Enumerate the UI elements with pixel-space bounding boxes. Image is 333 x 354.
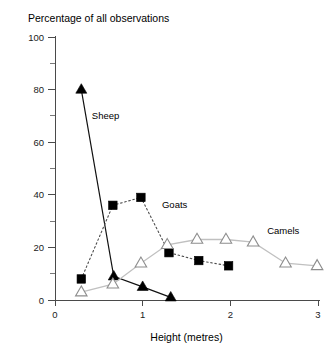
chart-plot: 0204060801000123Percentage of all observ… [0, 0, 333, 354]
marker-filled-square [77, 275, 86, 284]
marker-open-triangle [220, 233, 232, 243]
marker-open-triangle [247, 236, 259, 246]
marker-filled-square [165, 248, 174, 257]
chart-title: Percentage of all observations [28, 12, 169, 24]
marker-open-triangle [311, 260, 323, 270]
series-label-goats: Goats [162, 199, 188, 210]
series-label-sheep: Sheep [92, 110, 119, 121]
series-line-sheep [81, 90, 170, 298]
y-tick-label: 60 [33, 137, 44, 148]
marker-filled-square [224, 262, 233, 271]
marker-open-triangle [280, 257, 292, 267]
y-tick-label: 100 [28, 32, 44, 43]
y-tick-label: 0 [39, 295, 44, 306]
chart-container: 0204060801000123Percentage of all observ… [0, 0, 333, 354]
series-line-goats [81, 197, 228, 279]
chart-text-group: 0204060801000123Percentage of all observ… [28, 12, 321, 343]
marker-open-triangle [191, 233, 203, 243]
x-tick-label: 3 [315, 309, 320, 320]
marker-open-triangle [135, 257, 147, 267]
x-tick-label: 2 [228, 309, 233, 320]
series-goats [77, 193, 233, 283]
marker-filled-triangle [76, 84, 87, 94]
x-axis-title: Height (metres) [150, 331, 222, 343]
x-tick-label: 1 [140, 309, 145, 320]
y-tick-label: 80 [33, 84, 44, 95]
marker-filled-square [137, 193, 146, 202]
marker-filled-square [109, 201, 118, 210]
x-tick-label: 0 [52, 309, 57, 320]
marker-filled-square [195, 256, 204, 265]
series-label-camels: Camels [267, 225, 299, 236]
y-tick-label: 20 [33, 242, 44, 253]
y-tick-label: 40 [33, 189, 44, 200]
chart-axes [48, 36, 320, 306]
